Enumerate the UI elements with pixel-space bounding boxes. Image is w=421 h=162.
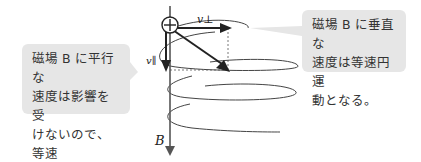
callout-line: 速度は影響を受 <box>32 87 122 125</box>
v-perp-label: v⊥ <box>197 13 214 26</box>
callout-line: けないので、等速 <box>32 125 122 162</box>
velocity-arrow <box>170 28 222 64</box>
b-arrowhead-icon <box>165 146 175 156</box>
parallel-velocity-callout: 磁場 B に平行な 速度は影響を受 けないので、等速 直線運動となる。 <box>22 44 130 114</box>
callout-line: 速度は等速円運 <box>312 53 398 91</box>
perpendicular-velocity-callout: 磁場 B に垂直な 速度は等速円運 動となる。 <box>302 10 406 72</box>
callout-line: 磁場 B に平行な <box>32 49 122 87</box>
v-perp-arrowhead-icon <box>220 23 232 33</box>
b-field-label: B <box>155 133 165 148</box>
right-callout-pointer <box>250 26 302 36</box>
callout-line: 動となる。 <box>312 91 398 110</box>
left-callout-pointer <box>130 62 138 80</box>
callout-line: 磁場 B に垂直な <box>312 15 398 53</box>
helix-path <box>160 20 298 132</box>
v-parallel-label: v∥ <box>146 55 156 66</box>
